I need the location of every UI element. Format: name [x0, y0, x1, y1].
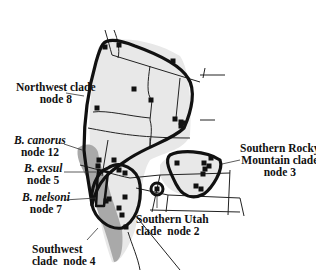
sample-marker	[175, 161, 180, 166]
sample-marker	[203, 167, 208, 172]
label-line: Southern Utah	[136, 213, 209, 225]
sample-marker	[209, 156, 214, 161]
label-b-nelsoni: B. nelsoni node 7	[22, 191, 70, 215]
label-line: B. exsul	[24, 162, 62, 174]
sample-marker	[120, 213, 125, 218]
sample-marker	[103, 45, 108, 50]
sample-marker	[202, 161, 207, 166]
sample-marker	[95, 106, 100, 111]
label-line: node 3	[240, 166, 316, 178]
label-line: clade node 4	[32, 255, 96, 267]
label-line: node 7	[22, 203, 70, 215]
label-line: Southwest	[32, 243, 96, 255]
label-southern-utah-clade: Southern Utah clade node 2	[136, 213, 209, 237]
label-line: Southern Rocky	[240, 142, 316, 154]
sample-marker	[155, 187, 159, 191]
sample-marker	[149, 98, 154, 103]
sample-marker	[173, 117, 178, 122]
label-line: node 12	[14, 146, 66, 158]
sample-marker	[199, 187, 204, 192]
label-line: node 8	[16, 93, 96, 105]
sample-marker	[123, 195, 128, 200]
sample-marker	[117, 43, 122, 48]
label-line: clade node 2	[136, 225, 209, 237]
sample-marker	[132, 87, 137, 92]
label-line: Mountain clade	[240, 154, 316, 166]
label-line: B. canorus	[14, 134, 66, 146]
sample-marker	[107, 197, 112, 202]
sample-marker	[194, 184, 199, 189]
sample-marker	[97, 158, 102, 163]
sample-marker	[201, 172, 206, 177]
sample-marker	[124, 225, 129, 230]
sample-marker	[171, 59, 176, 64]
label-line: B. nelsoni	[22, 191, 70, 203]
label-b-exsul: B. exsul node 5	[24, 162, 62, 186]
sample-marker	[117, 206, 122, 211]
label-b-canorus: B. canorus node 12	[14, 134, 66, 158]
sample-marker	[117, 168, 122, 173]
sample-marker	[96, 164, 101, 169]
label-southwest-clade: Southwest clade node 4	[32, 243, 96, 267]
label-northwest-clade: Northwest clade node 8	[16, 81, 96, 105]
sample-marker	[112, 158, 117, 163]
label-line: node 5	[24, 174, 62, 186]
sample-marker	[123, 171, 128, 176]
label-southern-rocky-mountain-clade: Southern Rocky Mountain clade node 3	[240, 142, 316, 178]
label-line: Northwest clade	[16, 81, 96, 93]
sample-marker	[181, 121, 186, 126]
